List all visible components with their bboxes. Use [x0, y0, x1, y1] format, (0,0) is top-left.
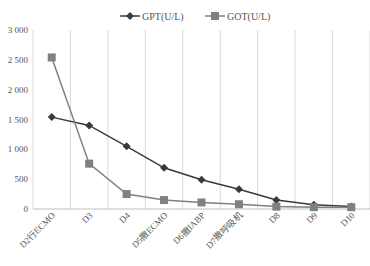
square-marker — [48, 53, 56, 61]
x-tick-label: D10 — [339, 210, 357, 228]
x-tick-label: D5撤ECMO — [129, 209, 170, 250]
legend-diamond-icon — [126, 12, 134, 20]
diamond-marker — [48, 113, 56, 121]
diamond-marker — [123, 142, 131, 150]
y-tick-label: 1 000 — [8, 144, 29, 154]
chart-canvas: 05001 0001 5002 0002 5003 000D2行ECMOD3D4… — [0, 0, 370, 266]
square-marker — [235, 200, 243, 208]
square-marker — [123, 190, 131, 198]
diamond-marker — [235, 185, 243, 193]
diamond-marker — [160, 164, 168, 172]
y-tick-label: 2 000 — [8, 85, 29, 95]
square-marker — [160, 196, 168, 204]
x-tick-label: D9 — [304, 210, 319, 225]
x-tick-label: D8 — [267, 210, 282, 225]
y-tick-label: 500 — [15, 174, 29, 184]
square-marker — [85, 160, 93, 168]
diamond-marker — [198, 176, 206, 184]
square-marker — [347, 203, 355, 211]
square-marker — [198, 198, 206, 206]
legend-label: GOT(U/L) — [227, 11, 270, 23]
y-tick-label: 2 500 — [8, 55, 29, 65]
square-marker — [310, 203, 318, 211]
y-tick-label: 0 — [24, 204, 29, 214]
series-line — [52, 117, 352, 206]
y-tick-label: 3 000 — [8, 25, 29, 35]
square-marker — [272, 203, 280, 211]
x-tick-label: D4 — [117, 210, 132, 225]
x-tick-label: D6撤IABP — [170, 210, 206, 246]
x-tick-label: D3 — [80, 210, 95, 225]
x-tick-label: D7撤呼吸机 — [203, 210, 244, 251]
y-tick-label: 1 500 — [8, 115, 29, 125]
x-tick-label: D2行ECMO — [17, 209, 58, 250]
series-line — [52, 57, 352, 207]
legend-label: GPT(U/L) — [142, 11, 184, 23]
line-chart: 05001 0001 5002 0002 5003 000D2行ECMOD3D4… — [0, 0, 370, 266]
legend-square-icon — [211, 12, 219, 20]
diamond-marker — [85, 121, 93, 129]
